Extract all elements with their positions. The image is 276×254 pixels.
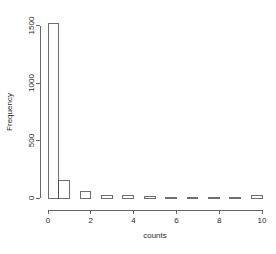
chart-canvas: 0246810 050010001500 counts Frequency: [0, 0, 276, 254]
histogram-bar: [59, 181, 70, 198]
x-axis-tick-label: 2: [89, 216, 94, 225]
x-axis-tick-label: 6: [174, 216, 179, 225]
x-axis-title-group: counts: [143, 231, 167, 240]
y-axis-tick-label: 0: [27, 195, 36, 200]
y-axis-tick-label: 500: [27, 133, 36, 147]
histogram-bar: [123, 196, 134, 198]
histogram-plot: 0246810 050010001500 counts Frequency: [0, 0, 276, 254]
x-axis-title: counts: [143, 231, 167, 240]
x-axis: 0246810: [46, 210, 267, 225]
x-axis-tick-label: 10: [258, 216, 267, 225]
histogram-bar: [187, 197, 198, 198]
x-axis-tick-label: 0: [46, 216, 51, 225]
histogram-bar: [230, 197, 241, 198]
x-axis-tick-label: 8: [217, 216, 222, 225]
histogram-bar: [80, 192, 91, 198]
y-axis: 050010001500: [27, 16, 40, 200]
bars-group: [48, 23, 262, 198]
histogram-bar: [166, 197, 177, 198]
x-axis-tick-label: 4: [131, 216, 136, 225]
histogram-bar: [48, 23, 59, 198]
y-axis-tick-label: 1000: [27, 74, 36, 92]
histogram-bar: [102, 195, 113, 198]
histogram-bar: [251, 195, 262, 198]
y-axis-title-group: Frequency: [5, 93, 14, 131]
histogram-bar: [209, 197, 220, 198]
y-axis-tick-label: 1500: [27, 16, 36, 34]
histogram-bar: [144, 197, 155, 198]
y-axis-title: Frequency: [5, 93, 14, 131]
